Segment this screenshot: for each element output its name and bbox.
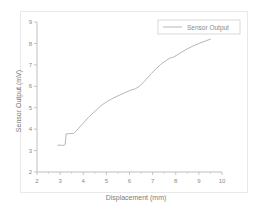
- y-tick-label-6: 6: [29, 83, 33, 89]
- x-tick-label-4: 4: [82, 178, 86, 184]
- y-tick-label-3: 3: [29, 148, 33, 154]
- x-tick-label-3: 3: [58, 178, 62, 184]
- y-axis-title: Sensor Output (mV): [15, 70, 23, 132]
- y-tick-label-9: 9: [29, 19, 33, 25]
- x-axis-title: Displacement (mm): [106, 194, 167, 202]
- line-chart-canvas: 23456789 2345678910 Displacement (mm) Se…: [0, 0, 255, 212]
- x-tick-label-9: 9: [197, 178, 201, 184]
- y-tick-label-8: 8: [29, 41, 33, 47]
- y-tick-label-4: 4: [29, 126, 33, 132]
- data-series-line-sensor-output: [58, 39, 211, 145]
- x-tick-label-5: 5: [105, 178, 109, 184]
- chart-legend[interactable]: Sensor Output: [158, 20, 240, 34]
- x-tick-label-7: 7: [151, 178, 155, 184]
- y-tick-label-2: 2: [29, 169, 33, 175]
- y-tick-label-5: 5: [29, 105, 33, 111]
- y-axis-tick-labels: 23456789: [29, 19, 33, 175]
- legend-label-sensor-output: Sensor Output: [187, 24, 229, 32]
- x-tick-label-10: 10: [219, 178, 226, 184]
- y-tick-label-7: 7: [29, 62, 33, 68]
- x-tick-label-8: 8: [174, 178, 178, 184]
- chart-figure: 23456789 2345678910 Displacement (mm) Se…: [0, 0, 255, 212]
- x-axis-tick-labels: 2345678910: [35, 178, 226, 184]
- x-tick-label-6: 6: [128, 178, 132, 184]
- x-tick-label-2: 2: [35, 178, 39, 184]
